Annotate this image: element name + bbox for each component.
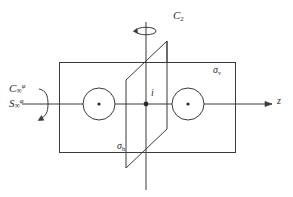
inversion-center-label: i [151,88,154,98]
sigma-h-label-subscript: h [122,145,125,152]
sigma-v-plane-rectangle [60,63,236,153]
c-infinity-axis-label: C∞φ [9,83,25,95]
symmetry-elements-figure: C2 C∞φ S∞φ σv σh i z [0,0,293,197]
z-axis-arrowhead [265,101,272,106]
s-infinity-axis-label: S∞φ [9,98,24,110]
symmetry-diagram-canvas [0,0,293,197]
c2-label-subscript: 2 [180,15,183,22]
c-infinity-rotation-arrowhead [38,116,44,121]
c2-rotation-arrowhead [133,29,137,34]
sigma-h-plane-label: σh [117,141,125,152]
sigma-v-plane-label: σv [213,65,221,76]
c2-axis-label: C2 [173,10,184,23]
inversion-center-dot [144,102,149,107]
right-atom-center-dot [186,102,189,105]
s-infinity-label-superscript: φ [20,97,24,104]
z-axis-label: z [277,96,281,106]
left-atom-center-dot [97,102,100,105]
sigma-v-label-subscript: v [218,69,221,76]
c-infinity-label-superscript: φ [22,82,26,89]
